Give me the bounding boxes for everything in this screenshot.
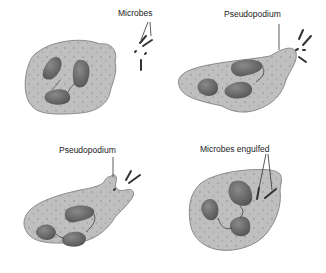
microbes bbox=[296, 30, 311, 62]
panel-4-neutrophil bbox=[189, 154, 281, 250]
microbes bbox=[114, 171, 140, 190]
label-microbes-engulfed: Microbes engulfed bbox=[200, 144, 269, 154]
panel-3-neutrophil bbox=[24, 157, 140, 247]
label-pseudopodium-1: Pseudopodium bbox=[224, 9, 281, 19]
cell-body bbox=[178, 48, 296, 112]
panel-1-neutrophil bbox=[25, 22, 152, 114]
microbes bbox=[135, 36, 152, 70]
label-pseudopodium-2: Pseudopodium bbox=[59, 145, 116, 155]
cell-body bbox=[25, 40, 116, 114]
label-microbes: Microbes bbox=[118, 8, 152, 18]
phagocytosis-diagram bbox=[0, 0, 326, 273]
panel-2-neutrophil bbox=[178, 24, 311, 112]
